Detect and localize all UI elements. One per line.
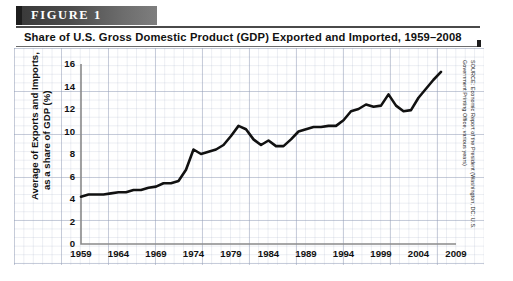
x-tick-label: 1964 bbox=[108, 248, 130, 259]
y-axis-title: Average of Exports and Imports, as a sha… bbox=[29, 52, 52, 200]
y-tick-label: 4 bbox=[70, 193, 76, 204]
x-tick-label: 1994 bbox=[333, 248, 355, 259]
x-tick-label: 1984 bbox=[258, 248, 280, 259]
x-tick-label: 1974 bbox=[183, 248, 205, 259]
line-chart: 0246810121416 19591964196919741979198419… bbox=[0, 0, 513, 281]
x-tick-label: 1989 bbox=[295, 248, 316, 259]
chart-svg: 0246810121416 19591964196919741979198419… bbox=[0, 0, 513, 281]
y-tick-label: 8 bbox=[70, 148, 76, 159]
source-note: SOURCE: Economic Report of the President… bbox=[461, 60, 476, 256]
x-tick-label: 1969 bbox=[145, 248, 166, 259]
svg-text:Average of Exports and Imports: Average of Exports and Imports, bbox=[29, 52, 40, 200]
figure-root: FIGURE 1 Share of U.S. Gross Domestic Pr… bbox=[0, 0, 513, 281]
chart-axes bbox=[81, 64, 456, 244]
y-tick-label: 6 bbox=[70, 171, 75, 182]
y-tick-label: 16 bbox=[64, 58, 75, 69]
data-series-line bbox=[81, 72, 441, 197]
x-tick-label: 1999 bbox=[370, 248, 391, 259]
x-axis-tick-labels: 1959196419691974197919841989199419992004… bbox=[70, 248, 466, 259]
y-axis-tick-labels: 0246810121416 bbox=[64, 58, 75, 249]
svg-text:as a share of GDP (%): as a share of GDP (%) bbox=[41, 90, 52, 190]
x-tick-label: 1979 bbox=[220, 248, 241, 259]
x-tick-label: 2004 bbox=[408, 248, 430, 259]
x-tick-label: 1959 bbox=[70, 248, 91, 259]
y-tick-label: 10 bbox=[64, 126, 75, 137]
y-tick-label: 14 bbox=[64, 81, 75, 92]
y-tick-label: 12 bbox=[64, 103, 75, 114]
y-tick-label: 2 bbox=[70, 216, 75, 227]
